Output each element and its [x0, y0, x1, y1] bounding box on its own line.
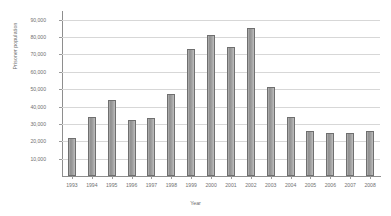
y-axis-tick-label: 50,000: [10, 86, 46, 92]
bar: [366, 131, 374, 176]
bar: [88, 117, 96, 176]
bar: [108, 100, 116, 176]
bar: [346, 133, 354, 176]
gridline: [62, 20, 380, 21]
y-axis-tick: [59, 89, 62, 90]
y-axis-tick: [59, 37, 62, 38]
bar: [147, 118, 155, 176]
gridline: [62, 89, 380, 90]
bar: [326, 133, 334, 176]
x-axis-tick: [171, 176, 172, 179]
y-axis-tick: [59, 124, 62, 125]
y-axis-tick: [59, 72, 62, 73]
x-axis-tick: [271, 176, 272, 179]
x-axis-tick: [350, 176, 351, 179]
y-axis-tick-label: 70,000: [10, 51, 46, 57]
gridline: [62, 72, 380, 73]
y-axis-tick-label: 10,000: [10, 156, 46, 162]
bar: [68, 138, 76, 176]
plot-area: 90,00080,00070,00060,00050,00040,00030,0…: [62, 11, 380, 176]
x-axis-tick: [310, 176, 311, 179]
bar: [247, 28, 255, 176]
bar: [207, 35, 215, 176]
x-axis-tick: [151, 176, 152, 179]
bar: [227, 47, 235, 176]
x-axis-tick: [231, 176, 232, 179]
y-axis-tick-label: 40,000: [10, 104, 46, 110]
x-axis-tick: [291, 176, 292, 179]
x-axis-tick: [370, 176, 371, 179]
bar: [167, 94, 175, 176]
gridline: [62, 54, 380, 55]
x-axis-tick: [191, 176, 192, 179]
x-axis-tick: [211, 176, 212, 179]
bar-chart: Prisoner population 90,00080,00070,00060…: [0, 0, 391, 216]
x-axis-tick: [132, 176, 133, 179]
y-axis-tick-label: 60,000: [10, 69, 46, 75]
y-axis-tick: [59, 107, 62, 108]
bar: [187, 49, 195, 176]
x-axis-tick-label: 2008: [357, 182, 383, 188]
y-axis-tick-label: 30,000: [10, 121, 46, 127]
bar: [267, 87, 275, 176]
y-axis-tick-label: 80,000: [10, 34, 46, 40]
y-axis-tick: [59, 141, 62, 142]
x-axis-tick: [251, 176, 252, 179]
bar: [287, 117, 295, 176]
x-axis-title: Year: [0, 200, 391, 206]
x-axis-tick: [72, 176, 73, 179]
y-axis-tick: [59, 20, 62, 21]
bar: [128, 120, 136, 176]
x-axis-tick: [112, 176, 113, 179]
y-axis-tick-label: 20,000: [10, 138, 46, 144]
y-axis-tick: [59, 159, 62, 160]
bar: [306, 131, 314, 176]
x-axis-tick: [330, 176, 331, 179]
x-axis-line: [62, 176, 381, 177]
y-axis-tick-label: 90,000: [10, 17, 46, 23]
gridline: [62, 37, 380, 38]
y-axis-tick: [59, 54, 62, 55]
x-axis-tick: [92, 176, 93, 179]
